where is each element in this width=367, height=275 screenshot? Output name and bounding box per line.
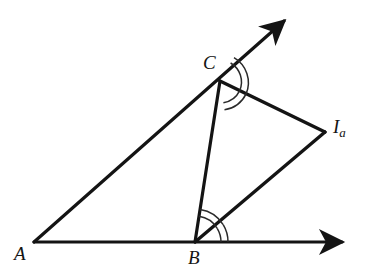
vertex-label-b: B — [188, 248, 200, 267]
arc-B-outer-2 — [223, 225, 228, 242]
vertex-label-a: A — [14, 244, 26, 263]
geometry-figure: A B C Ia — [0, 0, 367, 275]
geometry-canvas — [0, 0, 367, 275]
side-BC — [195, 81, 220, 242]
vertex-label-c: C — [203, 53, 216, 72]
vertex-label-ia-subscript: a — [339, 125, 346, 140]
ray-AC-extended — [34, 21, 284, 242]
arc-C-inner — [223, 91, 239, 103]
vertex-label-ia: Ia — [333, 117, 346, 139]
arc-B-inner-2 — [217, 228, 221, 242]
ray-AC-extended-line — [34, 21, 284, 242]
